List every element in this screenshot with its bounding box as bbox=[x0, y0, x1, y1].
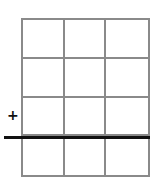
grid-cell bbox=[23, 20, 65, 59]
grid-cell bbox=[65, 59, 107, 98]
grid-cell bbox=[65, 136, 107, 175]
grid-cell bbox=[23, 59, 65, 98]
plus-icon: + bbox=[7, 108, 19, 122]
grid-cell bbox=[106, 59, 148, 98]
grid-cell bbox=[65, 98, 107, 137]
grid-cell bbox=[106, 98, 148, 137]
grid-cell bbox=[106, 136, 148, 175]
bold-horizontal-line bbox=[4, 136, 150, 139]
grid-cell bbox=[106, 20, 148, 59]
grid-cell bbox=[65, 20, 107, 59]
grid-cell bbox=[23, 98, 65, 137]
grid bbox=[21, 18, 150, 177]
grid-cell bbox=[23, 136, 65, 175]
